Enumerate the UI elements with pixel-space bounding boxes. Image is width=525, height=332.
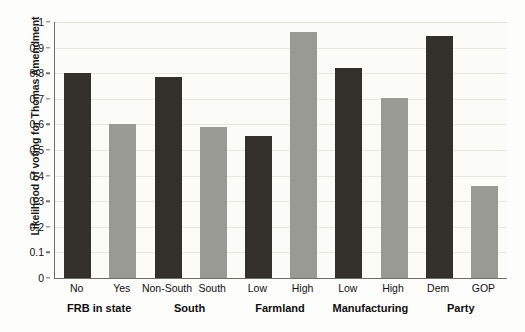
group-labels: FRB in stateSouthFarmlandManufacturingPa… [54,302,506,320]
bar [335,68,362,278]
x-axis-category-label: South [198,282,225,294]
bar [109,124,136,278]
x-axis-category-label: Dem [427,282,449,294]
bar [245,136,272,278]
y-axis-tick-mark [46,47,50,48]
x-axis-category-label: No [70,282,83,294]
x-axis-group-label: FRB in state [67,302,131,314]
x-axis-group-label: South [174,302,205,314]
category-labels: NoYesNon-SouthSouthLowHighLowHighDemGOP [54,282,506,298]
y-axis-tick-mark [46,21,50,22]
x-axis-group-label: Manufacturing [333,302,409,314]
y-axis-tick-mark [46,98,50,99]
bar-chart: Likelihood of voting for Thomas Amendmen… [0,0,525,332]
y-axis-tick-label: 0.3 [29,195,44,207]
y-axis-tick-mark [46,200,50,201]
y-axis-tick-label: 0.6 [29,118,44,130]
x-axis-group-label: Farmland [255,302,305,314]
y-axis-tick-label: 0.5 [29,144,44,156]
y-axis-tick-label: 0.7 [29,93,44,105]
bar [381,98,408,278]
x-axis-category-label: Low [248,282,267,294]
plot-area [54,22,507,279]
bar [471,186,498,278]
y-axis-tick-label: 0 [38,272,44,284]
gridline [55,22,507,23]
bar [64,73,91,278]
x-axis-category-label: Non-South [142,282,192,294]
bar [426,36,453,278]
y-axis-tick-mark [46,226,50,227]
y-axis-tick-mark [46,175,50,176]
y-axis-tick-mark [46,252,50,253]
y-axis-ticks: 00.10.20.30.40.50.60.70.80.91 [0,22,50,278]
y-axis-tick-label: 0.9 [29,42,44,54]
bar [290,32,317,278]
x-axis-category-label: Low [338,282,357,294]
y-axis-tick-mark [46,277,50,278]
x-axis-category-label: High [292,282,314,294]
x-axis-category-label: Yes [113,282,130,294]
bar [155,77,182,278]
x-axis-category-label: High [382,282,404,294]
y-axis-tick-mark [46,72,50,73]
y-axis-tick-label: 0.8 [29,67,44,79]
y-axis-tick-mark [46,149,50,150]
bar [200,127,227,278]
x-axis-category-label: GOP [472,282,495,294]
y-axis-tick-mark [46,124,50,125]
y-axis-tick-label: 0.1 [29,246,44,258]
y-axis-tick-label: 1 [38,16,44,28]
y-axis-tick-label: 0.4 [29,170,44,182]
y-axis-tick-label: 0.2 [29,221,44,233]
x-axis-group-label: Party [447,302,475,314]
